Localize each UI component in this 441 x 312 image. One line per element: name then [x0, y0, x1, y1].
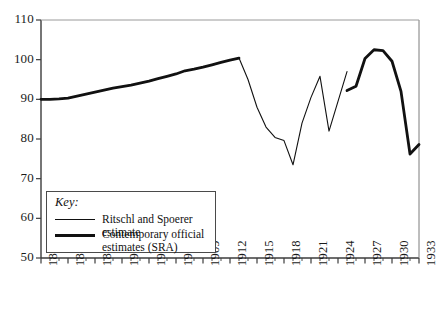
y-tick-label: 60 [0, 209, 34, 225]
series-line-official-sra [347, 50, 419, 154]
legend-label-official-sra: Contemporary official estimates (SRA) [102, 228, 215, 253]
x-tick-label: 1930 [397, 240, 412, 266]
x-tick-label: 1912 [235, 240, 250, 266]
x-tick-label: 1927 [370, 240, 385, 266]
y-tick-label: 50 [0, 249, 34, 265]
y-axis-ticks [36, 20, 41, 258]
x-axis-ticks [41, 258, 419, 264]
x-tick-label: 1921 [316, 240, 331, 266]
legend-title: Key: [55, 195, 79, 210]
y-tick-label: 110 [0, 11, 34, 27]
y-tick-label: 90 [0, 90, 34, 106]
y-tick-label: 100 [0, 51, 34, 67]
y-tick-label: 70 [0, 170, 34, 186]
chart-legend: Key: Ritschl and Spoerer estimate Contem… [46, 191, 216, 253]
chart-series-lines [41, 50, 419, 165]
series-line-official-sra [41, 58, 239, 99]
chart-container: 1101009080706050 18911894189719001903190… [0, 0, 441, 312]
x-tick-label: 1924 [343, 240, 358, 266]
x-tick-label: 1915 [262, 240, 277, 266]
series-line-ritschl-spoerer [239, 58, 347, 165]
y-tick-label: 80 [0, 130, 34, 146]
x-tick-label: 1933 [424, 240, 439, 266]
x-tick-label: 1918 [289, 240, 304, 266]
legend-item-official-sra: Contemporary official estimates (SRA) [55, 228, 215, 253]
legend-swatch-thin-line [55, 219, 95, 220]
legend-swatch-thick-line [55, 234, 95, 237]
